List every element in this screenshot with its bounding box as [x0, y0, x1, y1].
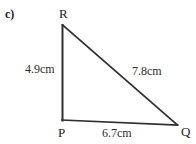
- diagram-canvas: c) R P Q 4.9cm 7.8cm 6.7cm: [0, 0, 196, 144]
- side-length-label-pq: 6.7cm: [102, 127, 132, 139]
- vertex-label-p: P: [58, 126, 65, 139]
- vertex-label-r: R: [59, 7, 68, 20]
- side-length-label-pr: 4.9cm: [25, 63, 55, 75]
- item-label: c): [5, 8, 14, 20]
- side-pq-line: [62, 120, 178, 125]
- side-length-label-rq: 7.8cm: [132, 65, 162, 77]
- vertex-label-q: Q: [181, 125, 190, 138]
